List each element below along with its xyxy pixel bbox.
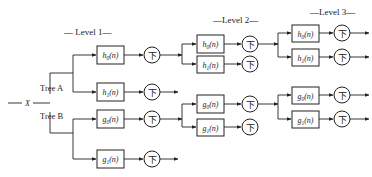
level2-downsampler-h1: 下 bbox=[242, 56, 258, 72]
level2-downsampler-g1: 下 bbox=[242, 119, 258, 135]
downsample-icon: 下 bbox=[246, 100, 255, 110]
level2-filter-h1: h1(n) bbox=[197, 56, 224, 73]
level-2-label: —Level 2— bbox=[212, 15, 259, 25]
downsample-icon: 下 bbox=[338, 29, 347, 39]
level3-downsampler-g0: 下 bbox=[334, 87, 350, 103]
svg-text:h1(n): h1(n) bbox=[102, 88, 118, 98]
level1-filter-g1: g1(n) bbox=[97, 150, 124, 168]
svg-text:g1(n): g1(n) bbox=[202, 124, 218, 134]
level1-downsampler-h0: 下 bbox=[144, 47, 160, 63]
svg-text:h1(n): h1(n) bbox=[202, 61, 218, 71]
input-label: X bbox=[24, 99, 31, 108]
level2-filter-h0: h0(n) bbox=[197, 35, 224, 53]
svg-text:g1(n): g1(n) bbox=[297, 116, 313, 126]
svg-text:h1(n): h1(n) bbox=[297, 54, 313, 64]
level3-filter-g1: g1(n) bbox=[292, 111, 319, 128]
svg-text:g1(n): g1(n) bbox=[102, 155, 118, 165]
level1-filter-g0: g0(n) bbox=[97, 110, 124, 128]
level1-filter-h0: h0(n) bbox=[97, 46, 124, 64]
level3-filter-h1: h1(n) bbox=[292, 49, 319, 66]
level1-downsampler-h1: 下 bbox=[144, 84, 160, 100]
dual-tree-wavelet-diagram: — Level 1— —Level 2— —Level 3— X Tree A … bbox=[0, 0, 372, 177]
tree-b-branch bbox=[50, 119, 96, 159]
level2-downsampler-h0: 下 bbox=[242, 36, 258, 52]
level3-filter-g0: g0(n) bbox=[292, 87, 319, 104]
level2-filter-g0: g0(n) bbox=[197, 95, 224, 113]
level3-downsampler-h1: 下 bbox=[334, 49, 350, 65]
level2-filter-g1: g1(n) bbox=[197, 119, 224, 136]
input-signal: X bbox=[8, 73, 50, 133]
downsample-icon: 下 bbox=[246, 40, 255, 50]
downsample-icon: 下 bbox=[148, 88, 157, 98]
level1-downsampler-g1: 下 bbox=[144, 151, 160, 167]
downsample-icon: 下 bbox=[148, 155, 157, 165]
tree-a-label: Tree A bbox=[40, 83, 64, 93]
svg-text:g0(n): g0(n) bbox=[297, 92, 313, 102]
svg-text:h0(n): h0(n) bbox=[202, 40, 218, 50]
level1-downsampler-g0: 下 bbox=[144, 111, 160, 127]
level2-downsampler-g0: 下 bbox=[242, 96, 258, 112]
svg-text:h0(n): h0(n) bbox=[102, 51, 118, 61]
level3-filter-h0: h0(n) bbox=[292, 25, 319, 42]
tree-b-label: Tree B bbox=[40, 111, 63, 121]
level-1-label: — Level 1— bbox=[63, 27, 112, 37]
downsample-icon: 下 bbox=[338, 115, 347, 125]
svg-text:h0(n): h0(n) bbox=[297, 30, 313, 40]
downsample-icon: 下 bbox=[246, 123, 255, 133]
downsample-icon: 下 bbox=[338, 91, 347, 101]
level1-filter-h1: h1(n) bbox=[97, 83, 124, 101]
downsample-icon: 下 bbox=[246, 60, 255, 70]
downsample-icon: 下 bbox=[148, 115, 157, 125]
downsample-icon: 下 bbox=[338, 53, 347, 63]
level-3-label: —Level 3— bbox=[309, 7, 356, 17]
level3-downsampler-h0: 下 bbox=[334, 25, 350, 41]
downsample-icon: 下 bbox=[148, 51, 157, 61]
level3-downsampler-g1: 下 bbox=[334, 111, 350, 127]
svg-text:g0(n): g0(n) bbox=[102, 115, 118, 125]
svg-text:g0(n): g0(n) bbox=[202, 100, 218, 110]
